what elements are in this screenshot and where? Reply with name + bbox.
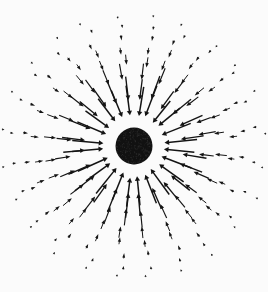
field-diagram-figure <box>0 0 268 292</box>
radial-field-canvas <box>0 0 268 292</box>
